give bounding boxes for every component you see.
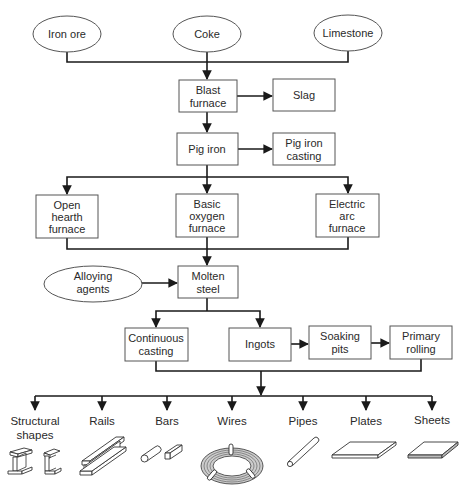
alloying-line2: agents	[76, 283, 110, 295]
continuous-casting-line2: casting	[139, 345, 174, 357]
product-pipes: Pipes	[289, 415, 318, 427]
product-plates: Plates	[350, 415, 382, 427]
product-sheets: Sheets	[414, 414, 450, 426]
electric-arc-line1: Electric	[329, 198, 366, 210]
electric-arc-line3: furnace	[329, 222, 366, 234]
alloying-line1: Alloying	[74, 270, 113, 282]
node-iron-ore: Iron ore	[33, 16, 101, 52]
i-beam-and-channel-icon	[8, 448, 61, 474]
node-basic-oxygen-furnace: Basic oxygen furnace	[176, 194, 238, 237]
primary-rolling-line1: Primary	[402, 330, 440, 342]
limestone-label: Limestone	[323, 27, 374, 39]
casting-split-line	[156, 311, 260, 320]
node-slag: Slag	[273, 79, 335, 111]
node-alloying-agents: Alloying agents	[44, 266, 142, 302]
continuous-casting-line1: Continuous	[128, 332, 184, 344]
node-limestone: Limestone	[314, 15, 382, 51]
node-ingots: Ingots	[229, 328, 291, 361]
node-primary-rolling: Primary rolling	[390, 326, 452, 359]
iron-ore-label: Iron ore	[48, 28, 86, 40]
electric-arc-line2: arc	[339, 210, 355, 222]
sheet-icon	[408, 442, 458, 458]
ingots-label: Ingots	[245, 338, 275, 350]
node-soaking-pits: Soaking pits	[309, 326, 371, 359]
pig-iron-casting-line2: casting	[287, 150, 322, 162]
primary-rolling-line2: rolling	[406, 343, 435, 355]
soaking-pits-line2: pits	[331, 343, 349, 355]
soaking-pits-line1: Soaking	[320, 330, 360, 342]
product-structural-line2: shapes	[16, 429, 53, 441]
node-pig-iron-casting: Pig iron casting	[273, 133, 335, 165]
basic-oxygen-line3: furnace	[189, 222, 226, 234]
node-continuous-casting: Continuous casting	[125, 328, 188, 361]
product-rails: Rails	[89, 415, 115, 427]
pig-iron-label: Pig iron	[188, 143, 225, 155]
steelmaking-flow-diagram: Iron ore Coke Limestone Blast furnace Sl…	[0, 0, 472, 492]
rail-icon	[80, 437, 126, 475]
node-molten-steel: Molten steel	[178, 266, 238, 298]
molten-steel-line2: steel	[196, 283, 219, 295]
node-pig-iron: Pig iron	[177, 133, 238, 165]
node-electric-arc-furnace: Electric arc furnace	[316, 194, 379, 237]
wire-coil-icon	[201, 444, 263, 484]
coke-label: Coke	[194, 28, 220, 40]
round-and-square-bar-icon	[141, 445, 182, 462]
molten-steel-line1: Molten	[191, 270, 224, 282]
pipe-icon	[287, 437, 318, 466]
node-blast-furnace: Blast furnace	[179, 80, 237, 112]
open-hearth-line3: furnace	[49, 223, 86, 235]
products: Structural shapes Rails Bars Wires Pipes…	[10, 414, 450, 441]
pig-iron-casting-line1: Pig iron	[285, 137, 322, 149]
blast-furnace-line1: Blast	[196, 84, 220, 96]
product-wires: Wires	[217, 415, 247, 427]
node-coke: Coke	[173, 16, 241, 52]
blast-furnace-line2: furnace	[190, 97, 227, 109]
plate-icon	[332, 442, 396, 458]
product-bars: Bars	[155, 415, 179, 427]
slag-label: Slag	[293, 89, 315, 101]
open-hearth-line2: hearth	[51, 211, 82, 223]
product-structural-line1: Structural	[10, 415, 59, 427]
basic-oxygen-line2: oxygen	[189, 210, 224, 222]
open-hearth-line1: Open	[54, 199, 81, 211]
node-open-hearth-furnace: Open hearth furnace	[36, 195, 98, 238]
basic-oxygen-line1: Basic	[194, 198, 221, 210]
